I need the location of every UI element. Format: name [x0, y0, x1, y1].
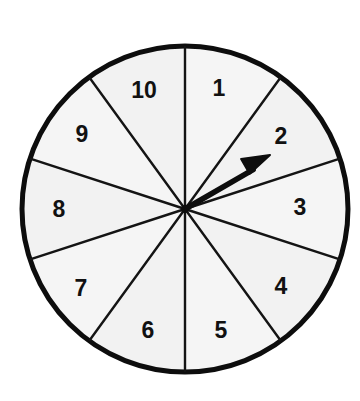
sector-label-2: 2	[275, 123, 288, 149]
sector-label-10: 10	[131, 77, 157, 103]
sector-label-9: 9	[76, 121, 89, 147]
spinner-figure: 12345678910	[0, 0, 360, 401]
sector-label-1: 1	[213, 75, 226, 101]
sector-label-6: 6	[142, 317, 155, 343]
spinner-wheel[interactable]: 12345678910	[0, 0, 360, 401]
sector-label-3: 3	[294, 194, 307, 220]
spinner-arrow-hub	[181, 205, 189, 213]
sector-label-4: 4	[275, 273, 288, 299]
sector-label-7: 7	[75, 275, 88, 301]
sector-label-8: 8	[53, 196, 66, 222]
sector-label-5: 5	[215, 317, 228, 343]
